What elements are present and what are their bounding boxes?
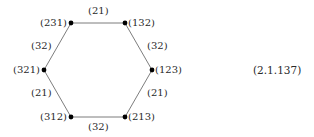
node-label-321: (321) — [13, 64, 40, 76]
edge-label-321-312: (21) — [31, 87, 52, 99]
node-321 — [42, 68, 47, 73]
edge-label-132-123: (32) — [147, 40, 168, 52]
edge-label-312-213: (32) — [88, 121, 109, 133]
node-231 — [69, 21, 74, 26]
node-213 — [123, 115, 128, 120]
node-label-132: (132) — [128, 17, 155, 29]
node-label-312: (312) — [40, 111, 67, 123]
edge-label-231-132: (21) — [88, 5, 109, 17]
node-132 — [123, 21, 128, 26]
equation-number: (2.1.137) — [253, 64, 301, 76]
node-label-123: (123) — [155, 64, 182, 76]
edge-label-231-321: (32) — [31, 40, 52, 52]
node-312 — [69, 115, 74, 120]
node-label-213: (213) — [128, 111, 155, 123]
edge-label-123-213: (21) — [147, 87, 168, 99]
hexagon-diagram: (231) (132) (321) (123) (312) (213) (21)… — [0, 0, 314, 137]
node-123 — [150, 68, 155, 73]
node-label-231: (231) — [40, 17, 67, 29]
